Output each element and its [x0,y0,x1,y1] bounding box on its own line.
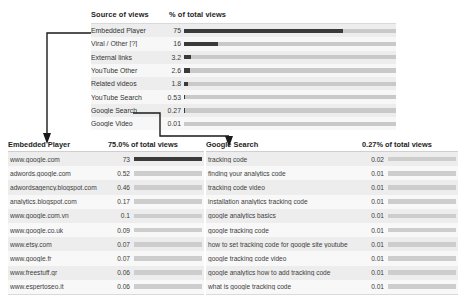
table-row[interactable]: www.etsy.com0.07 [8,237,204,251]
percent-value: 0.01 [157,120,184,127]
table-row[interactable]: www.google.com.vn0.1 [8,209,204,223]
detail-label[interactable]: www.google.co.uk [8,227,102,234]
bar-fill [134,157,202,162]
table-row[interactable]: google analytics how to add tracking cod… [206,266,458,280]
source-label[interactable]: Embedded Player [91,27,157,34]
source-label[interactable]: YouTube Other [91,67,157,74]
bar-track [134,284,202,289]
percent-value: 0.01 [356,241,388,248]
percent-value: 2.6 [157,67,184,74]
table-row[interactable]: google tracking code0.01 [206,223,458,237]
percent-value: 16 [157,40,184,47]
table-row[interactable]: google tracking code video0.01 [206,251,458,265]
detail-label[interactable]: adwordsagency.blogspot.com [8,184,102,191]
table-row[interactable]: how to set tracking code for google site… [206,237,458,251]
table-row[interactable]: YouTube Other2.6 [91,64,396,77]
source-label[interactable]: YouTube Search [91,94,157,101]
detail-label[interactable]: www.freestuff.gr [8,269,102,276]
left-table-footer-divider [8,294,204,301]
percent-value: 3.2 [157,54,184,61]
table-row[interactable]: External links3.2 [91,51,396,64]
table-row[interactable]: Related videos1.8 [91,77,396,90]
table-row[interactable]: finding your analytics code0.01 [206,166,458,180]
left-table-header-row: Embedded Player 75.0% of total views [8,138,204,152]
source-label[interactable]: Google Video [91,120,157,127]
bar-track [388,185,456,190]
percent-value: 0.01 [356,283,388,290]
left-table-title: Embedded Player [8,140,104,149]
table-row[interactable]: adwordsagency.blogspot.com0.46 [8,180,204,194]
bar-track [184,122,396,126]
detail-label[interactable]: google analytics how to add tracking cod… [206,269,356,276]
bar-track [388,284,456,289]
table-row[interactable]: tracking code video0.01 [206,180,458,194]
source-label[interactable]: External links [91,54,157,61]
detail-label[interactable]: adwords.google.com [8,170,102,177]
table-row[interactable]: www.freestuff.gr0.06 [8,266,204,280]
table-row[interactable]: www.espertoseo.it0.06 [8,280,204,294]
percent-value: 0.53 [157,94,184,101]
column-header-source: Source of views [91,10,157,19]
right-table-footer-divider [206,294,458,301]
bar-track [134,242,202,247]
detail-label[interactable]: www.google.com [8,156,102,163]
right-table-header-row: Google Search 0.27% of total views [206,138,458,152]
table-row[interactable]: www.google.com73 [8,152,204,166]
source-of-views-table: Source of views % of total views Embedde… [91,10,396,130]
source-label[interactable]: Google Search [91,107,157,114]
percent-value: 0.46 [102,184,134,191]
bar-track [184,82,396,86]
percent-value: 0.01 [356,184,388,191]
detail-label[interactable]: google analytics basics [206,212,356,219]
detail-label[interactable]: tracking code video [206,184,356,191]
percent-value: 0.07 [102,241,134,248]
bar-track [134,171,202,176]
detail-label[interactable]: how to set tracking code for google site… [206,241,356,248]
table-row[interactable]: www.google.fr0.07 [8,251,204,265]
detail-label[interactable]: google tracking code [206,227,356,234]
percent-value: 0.17 [102,198,134,205]
bar-fill [184,55,191,59]
table-row[interactable]: www.google.co.uk0.09 [8,223,204,237]
bar-track [134,185,202,190]
google-search-detail-table: Google Search 0.27% of total views track… [206,138,458,301]
bar-fill [184,95,185,99]
percent-value: 0.1 [102,212,134,219]
percent-value: 0.01 [356,212,388,219]
bar-fill [184,68,190,72]
source-label[interactable]: Related videos [91,80,157,87]
table-row[interactable]: google analytics basics0.01 [206,209,458,223]
bar-track [184,42,396,46]
table-row[interactable]: YouTube Search0.53 [91,90,396,103]
detail-label[interactable]: what is google tracking code [206,283,356,290]
table-row[interactable]: what is google tracking code0.01 [206,280,458,294]
percent-value: 0.01 [356,198,388,205]
right-table-body: tracking code0.02finding your analytics … [206,152,458,294]
detail-label[interactable]: tracking code [206,156,356,163]
table-row[interactable]: Google Video0.01 [91,117,396,130]
detail-label[interactable]: google tracking code video [206,255,356,262]
bar-track [388,214,456,219]
bar-track [134,157,202,162]
detail-label[interactable]: www.google.com.vn [8,212,102,219]
table-row[interactable]: adwords.google.com0.52 [8,166,204,180]
bar-track [184,95,396,99]
detail-label[interactable]: finding your analytics code [206,170,356,177]
table-row[interactable]: installation analytics tracking code0.01 [206,195,458,209]
table-row[interactable]: Google Search0.27 [91,104,396,117]
detail-label[interactable]: www.etsy.com [8,241,102,248]
detail-label[interactable]: www.google.fr [8,255,102,262]
bar-track [184,108,396,112]
percent-value: 0.27 [157,107,184,114]
left-table-subtitle: 75.0% of total views [104,140,204,149]
detail-label[interactable]: analytics.blogspot.com [8,198,102,205]
percent-value: 73 [102,156,134,163]
percent-value: 0.09 [102,227,134,234]
bar-track [388,270,456,275]
table-row[interactable]: analytics.blogspot.com0.17 [8,195,204,209]
table-row[interactable]: Embedded Player75 [91,24,396,37]
table-row[interactable]: Viral / Other [?]16 [91,37,396,50]
detail-label[interactable]: www.espertoseo.it [8,283,102,290]
detail-label[interactable]: installation analytics tracking code [206,198,356,205]
table-row[interactable]: tracking code0.02 [206,152,458,166]
